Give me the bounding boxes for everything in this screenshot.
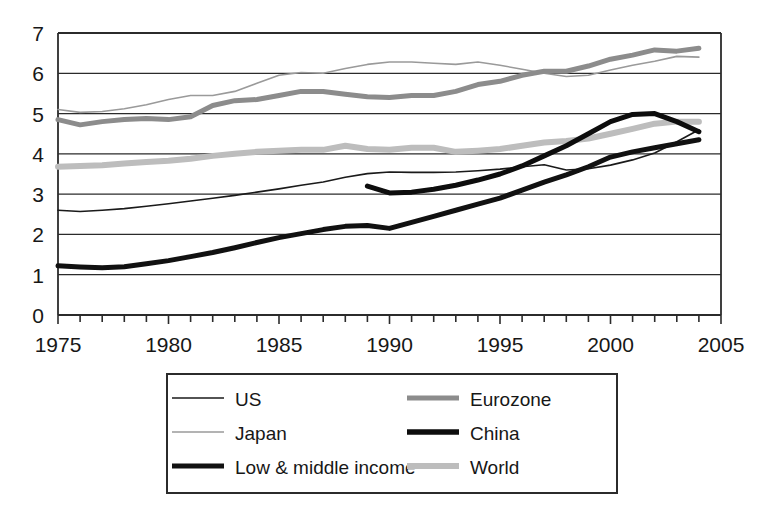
y-axis-tick-label: 2 bbox=[32, 223, 44, 246]
x-axis-tick-labels: 1975198019851990199520002005 bbox=[35, 333, 745, 356]
legend-label-low-middle-income: Low & middle income bbox=[235, 457, 416, 478]
legend-label-eurozone: Eurozone bbox=[470, 389, 551, 410]
line-chart: 01234567 1975198019851990199520002005 US… bbox=[0, 0, 771, 513]
x-axis-minor-ticks bbox=[58, 315, 721, 324]
legend-label-japan: Japan bbox=[235, 423, 287, 444]
y-axis-tick-label: 4 bbox=[32, 143, 44, 166]
legend-label-china: China bbox=[470, 423, 520, 444]
x-axis-tick-label: 1990 bbox=[366, 333, 413, 356]
y-axis-tick-label: 1 bbox=[32, 264, 44, 287]
y-axis-tick-labels: 01234567 bbox=[32, 22, 44, 327]
x-axis-tick-label: 1980 bbox=[145, 333, 192, 356]
x-axis-tick-label: 1995 bbox=[477, 333, 524, 356]
legend-label-us: US bbox=[235, 389, 261, 410]
series-line-japan bbox=[58, 56, 699, 112]
legend-label-world: World bbox=[470, 457, 519, 478]
y-axis-tick-label: 3 bbox=[32, 183, 44, 206]
plot-axes bbox=[58, 33, 721, 315]
y-axis-tick-label: 5 bbox=[32, 103, 44, 126]
x-axis-tick-label: 1985 bbox=[256, 333, 303, 356]
y-axis-tick-label: 0 bbox=[32, 304, 44, 327]
x-axis-tick-label: 1975 bbox=[35, 333, 82, 356]
y-axis-tick-label: 7 bbox=[32, 22, 44, 45]
x-axis-tick-label: 2000 bbox=[587, 333, 634, 356]
chart-figure: 01234567 1975198019851990199520002005 US… bbox=[0, 0, 771, 513]
series-line-us bbox=[58, 130, 699, 212]
y-axis-tick-label: 6 bbox=[32, 62, 44, 85]
x-axis-tick-label: 2005 bbox=[698, 333, 745, 356]
